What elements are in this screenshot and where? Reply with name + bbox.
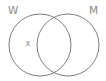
set-m-circle <box>37 14 99 76</box>
set-m-label: M <box>89 4 98 16</box>
venn-diagram: W M x <box>0 0 106 81</box>
set-w-circle <box>9 14 71 76</box>
element-mark: x <box>26 39 31 48</box>
set-w-label: W <box>8 4 19 16</box>
